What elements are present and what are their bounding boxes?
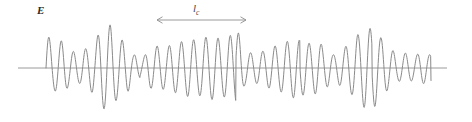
coherence-length-label: lc — [193, 2, 199, 17]
field-amplitude-label: E — [37, 4, 44, 16]
wave-trace — [46, 25, 431, 109]
coherence-label-subscript: c — [196, 8, 199, 17]
coherence-length-arrow — [157, 17, 246, 23]
waveform-plot — [0, 0, 472, 122]
coherence-wave-figure: E lc — [0, 0, 472, 122]
